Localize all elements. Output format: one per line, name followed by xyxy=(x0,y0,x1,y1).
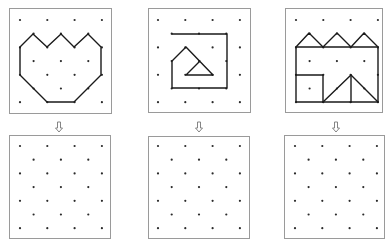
grid-dot xyxy=(295,19,297,21)
grid-dot xyxy=(225,213,227,215)
grid-dot xyxy=(101,101,103,103)
grid-dot xyxy=(101,227,103,229)
grid-dot xyxy=(225,186,227,188)
grid-dot xyxy=(362,186,364,188)
grid-dot xyxy=(46,145,48,147)
grid-dot xyxy=(309,60,311,62)
grid-dot xyxy=(239,145,241,147)
down-arrow-icon xyxy=(56,122,63,132)
grid-dot xyxy=(74,145,76,147)
grid-dot xyxy=(74,19,76,21)
grid-dot xyxy=(308,159,310,161)
grid-dot xyxy=(335,186,337,188)
grid-dot xyxy=(74,227,76,229)
grid-dot xyxy=(46,172,48,174)
grid-dot xyxy=(239,46,241,48)
grid-dot xyxy=(19,200,21,202)
grid-dot xyxy=(349,145,351,147)
grid-dot xyxy=(212,172,214,174)
down-arrow-icon xyxy=(196,122,203,132)
panel-frame xyxy=(286,9,383,113)
grid-dot xyxy=(239,200,241,202)
grid-dot xyxy=(184,200,186,202)
grid-dot xyxy=(363,60,365,62)
grid-dot xyxy=(157,200,159,202)
grid-dot xyxy=(198,186,200,188)
grid-dot xyxy=(157,74,159,76)
grid-dot xyxy=(184,145,186,147)
grid-dot xyxy=(239,172,241,174)
grid-dot xyxy=(198,159,200,161)
panel-blank-1 xyxy=(10,136,111,239)
grid-dot xyxy=(349,200,351,202)
grid-dot xyxy=(212,19,214,21)
grid-dot xyxy=(184,172,186,174)
grid-dot xyxy=(335,159,337,161)
grid-dot xyxy=(157,19,159,21)
grid-dot xyxy=(171,159,173,161)
grid-dot xyxy=(87,159,89,161)
grid-dot xyxy=(157,101,159,103)
grid-dot xyxy=(33,213,35,215)
grid-dot xyxy=(376,200,378,202)
grid-dot xyxy=(212,227,214,229)
grid-dot xyxy=(362,159,364,161)
grid-dot xyxy=(171,213,173,215)
down-arrow-icon xyxy=(333,122,340,132)
grid-dot xyxy=(19,172,21,174)
grid-dot xyxy=(101,200,103,202)
panel-example-2 xyxy=(149,9,251,113)
grid-dot xyxy=(376,145,378,147)
grid-dot xyxy=(157,172,159,174)
panel-example-3 xyxy=(286,9,383,113)
grid-dot xyxy=(376,172,378,174)
grid-dot xyxy=(60,213,62,215)
grid-dot xyxy=(46,74,48,76)
grid-dot xyxy=(184,19,186,21)
grid-dot xyxy=(322,19,324,21)
grid-dot xyxy=(171,186,173,188)
grid-dot xyxy=(349,172,351,174)
grid-dot xyxy=(294,200,296,202)
grid-dot xyxy=(46,227,48,229)
grid-dot xyxy=(362,213,364,215)
grid-dot xyxy=(157,145,159,147)
grid-dot xyxy=(184,227,186,229)
grid-dot xyxy=(60,60,62,62)
exercise-sheet xyxy=(0,0,392,245)
grid-dot xyxy=(239,227,241,229)
grid-dot xyxy=(33,159,35,161)
grid-dot xyxy=(212,200,214,202)
grid-dot xyxy=(74,200,76,202)
grid-dot xyxy=(101,172,103,174)
grid-dot xyxy=(60,87,62,89)
grid-dot xyxy=(19,101,21,103)
grid-dot xyxy=(309,87,311,89)
panel-blank-3 xyxy=(285,136,385,239)
grid-dot xyxy=(60,159,62,161)
grid-dot xyxy=(74,74,76,76)
dot-grid-canvas xyxy=(0,0,392,245)
grid-dot xyxy=(308,213,310,215)
grid-dot xyxy=(239,101,241,103)
grid-dot xyxy=(46,19,48,21)
panel-blank-2 xyxy=(149,137,250,239)
panel-example-1 xyxy=(10,9,112,114)
grid-dot xyxy=(46,200,48,202)
grid-dot xyxy=(335,213,337,215)
grid-dot xyxy=(87,213,89,215)
grid-dot xyxy=(87,60,89,62)
grid-dot xyxy=(321,145,323,147)
grid-dot xyxy=(308,186,310,188)
grid-dot xyxy=(212,101,214,103)
grid-dot xyxy=(321,227,323,229)
grid-dot xyxy=(294,227,296,229)
grid-dot xyxy=(19,145,21,147)
grid-dot xyxy=(19,19,21,21)
grid-dot xyxy=(294,172,296,174)
grid-dot xyxy=(184,101,186,103)
grid-dot xyxy=(294,145,296,147)
grid-dot xyxy=(87,186,89,188)
grid-dot xyxy=(33,60,35,62)
grid-dot xyxy=(157,46,159,48)
